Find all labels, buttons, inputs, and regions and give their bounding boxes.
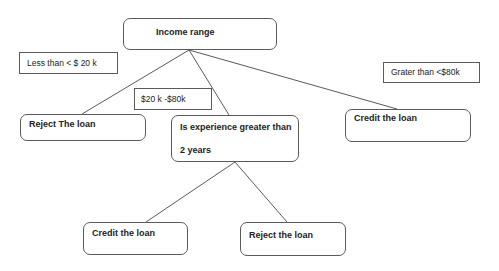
condition-mid-text: $20 k -$80k [141,94,185,105]
condition-high-text: Grater than <$80k [391,67,460,78]
condition-label-greater-than-80k: Grater than <$80k [383,62,480,83]
root-node-label: Income range [156,27,215,38]
condition-label-less-than-20k: Less than < $ 20 k [19,52,118,74]
experience-label-line2: 2 years [180,145,211,156]
credit-experience-label: Credit the loan [92,228,155,239]
reject-low-label: Reject The loan [29,119,96,130]
edge-experience-to-reject [235,162,287,222]
condition-label-20k-80k: $20 k -$80k [134,88,212,110]
credit-high-label: Credit the loan [354,113,417,124]
leaf-node-credit-experience: Credit the loan [83,222,188,255]
leaf-node-reject-experience: Reject the loan [240,222,346,256]
edge-experience-to-credit [146,162,235,222]
decision-node-experience: Is experience greater than 2 years [171,115,299,162]
reject-experience-label: Reject the loan [249,230,313,241]
condition-low-text: Less than < $ 20 k [27,58,97,69]
experience-label-line1: Is experience greater than [180,122,292,133]
root-node-income-range: Income range [123,18,277,50]
leaf-node-credit-high: Credit the loan [345,109,471,142]
leaf-node-reject-low: Reject The loan [20,114,146,141]
